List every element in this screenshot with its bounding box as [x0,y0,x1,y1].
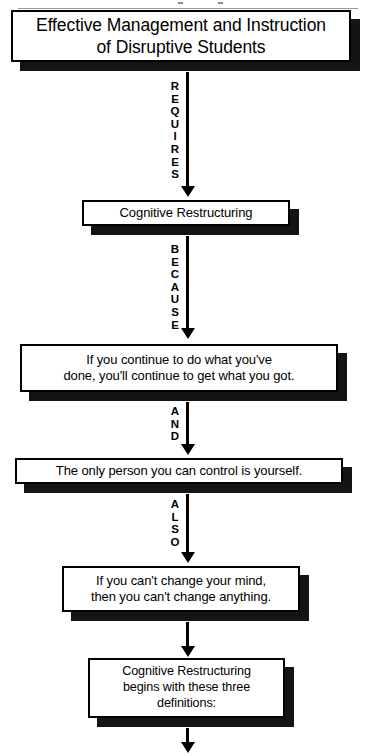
connector-label-letter: L [168,511,182,524]
node-continue-label: If you continue to do what you've done, … [57,352,300,385]
node-face: Effective Management and Instruction of … [11,10,351,62]
connector-label-letter: A [168,405,182,418]
connector-label-letter: S [168,168,182,181]
node-only-person[interactable]: The only person you can control is yours… [15,458,343,484]
node-face: If you continue to do what you've done, … [20,344,338,392]
connector-label-letter: O [168,536,182,549]
connector-label-letter: C [168,268,182,281]
connector-label-letter: E [168,319,182,332]
connector-arrowhead-plain-2 [181,742,195,753]
node-title[interactable]: Effective Management and Instruction of … [11,10,351,62]
connector-label-letter: E [168,156,182,169]
connector-line-also [186,494,189,554]
connector-line-because [186,236,189,330]
flowchart-canvas: Effective Management and Instruction of … [0,0,376,756]
connector-label-letter: S [168,523,182,536]
connector-label-letter: R [168,80,182,93]
connector-line-and [186,402,189,446]
connector-arrowhead-plain-1 [181,646,195,657]
connector-label-letter: Q [168,105,182,118]
connector-line-requires [186,72,189,188]
connector-label-letter: I [168,130,182,143]
connector-label-letter: A [168,281,182,294]
node-cognitive-restructuring[interactable]: Cognitive Restructuring [82,200,290,226]
node-three-definitions[interactable]: Cognitive Restructuring begins with thes… [88,658,285,718]
connector-label-letter: A [168,498,182,511]
connector-arrowhead-requires [181,186,195,197]
connector-arrowhead-also [181,552,195,563]
scan-artifact [178,2,183,4]
connector-arrowhead-because [181,328,195,339]
connector-label-and: AND [168,405,182,443]
connector-label-letter: S [168,306,182,319]
connector-label-requires: REQUIRES [168,80,182,181]
scan-artifact [218,2,223,4]
connector-label-letter: N [168,418,182,431]
node-cognitive-restructuring-label: Cognitive Restructuring [114,205,259,221]
connector-label-letter: B [168,243,182,256]
connector-label-letter: R [168,143,182,156]
scan-artifact [18,8,358,9]
node-change-mind-label: If you can't change your mind, then you … [85,573,277,606]
node-face: Cognitive Restructuring [82,200,290,226]
connector-label-also: ALSO [168,498,182,548]
node-only-person-label: The only person you can control is yours… [50,463,308,479]
node-three-definitions-label: Cognitive Restructuring begins with thes… [116,664,257,712]
connector-label-letter: U [168,293,182,306]
node-face: Cognitive Restructuring begins with thes… [88,658,285,718]
connector-label-letter: U [168,118,182,131]
connector-label-letter: E [168,93,182,106]
node-face: The only person you can control is yours… [15,458,343,484]
node-continue[interactable]: If you continue to do what you've done, … [20,344,338,392]
node-change-mind[interactable]: If you can't change your mind, then you … [62,566,300,612]
connector-label-letter: D [168,430,182,443]
connector-label-letter: E [168,256,182,269]
connector-label-because: BECAUSE [168,243,182,331]
connector-line-plain-1 [186,622,189,648]
connector-arrowhead-and [181,444,195,455]
node-title-label: Effective Management and Instruction of … [30,14,332,58]
node-face: If you can't change your mind, then you … [62,566,300,612]
